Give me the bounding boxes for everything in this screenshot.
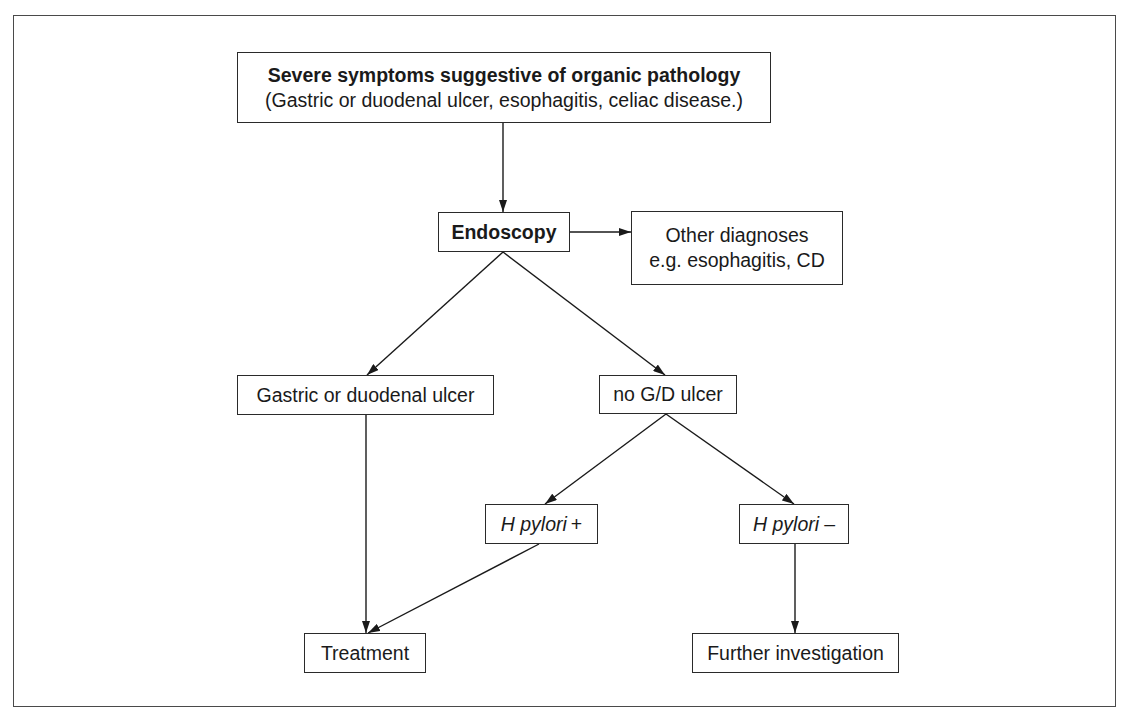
node-gastric-duodenal-ulcer: Gastric or duodenal ulcer — [237, 375, 494, 415]
node-hp-pos-sign: + — [571, 512, 582, 537]
node-endoscopy: Endoscopy — [438, 212, 570, 252]
node-severe-title: Severe symptoms suggestive of organic pa… — [268, 63, 740, 88]
node-other-line1: Other diagnoses — [665, 223, 808, 248]
node-other-diagnoses: Other diagnoses e.g. esophagitis, CD — [631, 211, 843, 285]
node-other-line2: e.g. esophagitis, CD — [649, 248, 825, 273]
node-further-investigation: Further investigation — [692, 633, 899, 673]
node-treatment-label: Treatment — [321, 641, 409, 666]
node-severe-subtitle: (Gastric or duodenal ulcer, esophagitis,… — [265, 88, 743, 113]
node-no-gd-label: no G/D ulcer — [613, 382, 722, 407]
node-no-gd-ulcer: no G/D ulcer — [599, 375, 737, 414]
node-h-pylori-positive: H pylori+ — [485, 504, 598, 544]
node-further-label: Further investigation — [707, 641, 884, 666]
node-hp-neg-sign: – — [824, 512, 835, 537]
node-severe-symptoms: Severe symptoms suggestive of organic pa… — [237, 52, 771, 123]
node-h-pylori-negative: H pylori– — [739, 504, 849, 544]
node-hp-pos-italic: H pylori — [501, 512, 567, 537]
node-hp-neg-italic: H pylori — [753, 512, 819, 537]
node-treatment: Treatment — [304, 633, 426, 673]
node-gastric-label: Gastric or duodenal ulcer — [257, 383, 475, 408]
node-endoscopy-label: Endoscopy — [451, 220, 556, 245]
